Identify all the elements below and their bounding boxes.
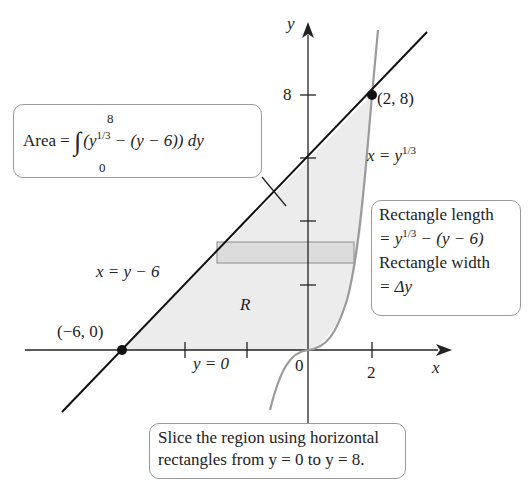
point-label-2-8: (2, 8) xyxy=(377,89,414,109)
curve-label-cubic: x = y1/3 xyxy=(367,146,416,166)
tick-label-2: 2 xyxy=(367,363,376,383)
tick-label-0: 0 xyxy=(295,356,304,376)
x-axis-label: x xyxy=(432,358,440,378)
area-formula-box: Area = ∫(y1/3 − (y − 6)) dy 8 0 xyxy=(13,104,262,178)
y-axis-label: y xyxy=(287,14,295,34)
x-axis-arrow xyxy=(436,344,452,356)
rectangle-info-box: Rectangle length = y1/3 − (y − 6) Rectan… xyxy=(371,200,521,316)
point-neg6-0 xyxy=(117,345,127,355)
point-2-8 xyxy=(367,90,377,100)
slice-rectangle xyxy=(217,242,354,263)
point-label-neg6-0: (−6, 0) xyxy=(57,322,103,342)
region-label: R xyxy=(240,295,250,315)
y-eq-0-label: y = 0 xyxy=(193,354,229,374)
curve-label-line: x = y − 6 xyxy=(96,262,160,282)
tick-label-8: 8 xyxy=(283,85,292,105)
slice-instruction-box: Slice the region using horizontal rectan… xyxy=(149,423,406,479)
